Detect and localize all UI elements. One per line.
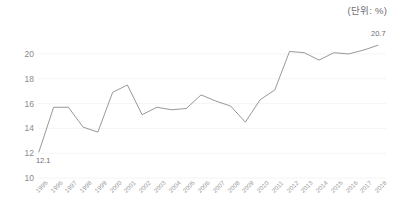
x-axis-tick-2011: 2011 xyxy=(270,179,285,194)
data-label-1995: 12.1 xyxy=(36,156,51,165)
gridlines xyxy=(38,54,386,178)
x-axis-tick-1995: 1995 xyxy=(34,179,49,194)
y-axis-tick-10: 10 xyxy=(12,173,34,183)
x-axis-tick-2018: 2018 xyxy=(373,179,388,194)
x-axis-tick-2013: 2013 xyxy=(299,179,314,194)
y-axis-tick-20: 20 xyxy=(12,49,34,59)
y-axis-tick-18: 18 xyxy=(12,74,34,84)
x-axis-tick-2010: 2010 xyxy=(255,179,270,194)
x-axis-tick-1999: 1999 xyxy=(93,179,108,194)
unit-annotation: (단위: %) xyxy=(348,3,387,17)
y-axis-tick-16: 16 xyxy=(12,99,34,109)
plot-svg xyxy=(38,44,386,178)
plot-area xyxy=(38,44,386,178)
line-chart: (단위: %) 101214161820 1995199619971998199… xyxy=(0,0,395,206)
x-axis-tick-2002: 2002 xyxy=(137,179,152,194)
y-axis-tick-labels: 101214161820 xyxy=(8,44,34,178)
x-axis-tick-2016: 2016 xyxy=(343,179,358,194)
x-axis-tick-2017: 2017 xyxy=(358,179,373,194)
x-axis-tick-2005: 2005 xyxy=(181,179,196,194)
x-axis-tick-1997: 1997 xyxy=(63,179,78,194)
x-axis-tick-2008: 2008 xyxy=(226,179,241,194)
y-axis-tick-12: 12 xyxy=(12,148,34,158)
y-axis-tick-14: 14 xyxy=(12,123,34,133)
x-axis-tick-2001: 2001 xyxy=(122,179,137,194)
x-axis-tick-2000: 2000 xyxy=(108,179,123,194)
x-axis-tick-2015: 2015 xyxy=(329,179,344,194)
x-axis-tick-2009: 2009 xyxy=(240,179,255,194)
x-axis-tick-2004: 2004 xyxy=(167,179,182,194)
data-label-2018: 20.7 xyxy=(371,29,386,38)
x-axis-tick-1998: 1998 xyxy=(78,179,93,194)
x-axis-tick-labels: 1995199619971998199920002001200220032004… xyxy=(38,179,386,206)
x-axis-tick-2003: 2003 xyxy=(152,179,167,194)
x-axis-tick-2006: 2006 xyxy=(196,179,211,194)
x-axis-tick-2014: 2014 xyxy=(314,179,329,194)
x-axis-tick-1996: 1996 xyxy=(49,179,64,194)
x-axis-tick-2007: 2007 xyxy=(211,179,226,194)
x-axis-tick-2012: 2012 xyxy=(284,179,299,194)
data-series-line xyxy=(39,45,378,152)
